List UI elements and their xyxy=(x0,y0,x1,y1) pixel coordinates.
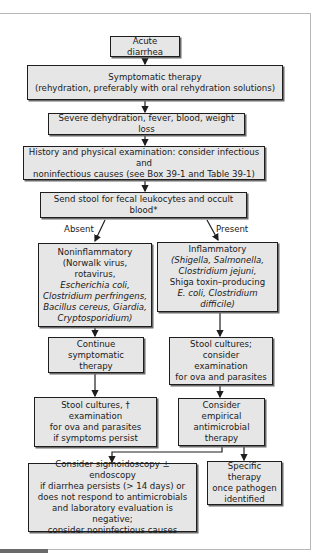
node-text: therapy xyxy=(205,433,238,444)
node-stool-cultures-persist: Stool cultures, † examination for ova an… xyxy=(34,397,157,447)
node-text: and laboratory evaluation is negative; xyxy=(32,503,193,525)
node-text: (rehydration, preferably with oral rehyd… xyxy=(35,83,275,94)
node-title: Inflammatory xyxy=(189,244,247,255)
node-severe-dehydration: Severe dehydration, fever, blood, weight… xyxy=(48,113,245,135)
node-send-stool: Send stool for fecal leukocytes and occu… xyxy=(40,192,247,218)
node-text: symptomatic therapy xyxy=(52,350,140,372)
node-text: History and physical examination: consid… xyxy=(27,147,261,169)
node-text: consider noninfectious causes xyxy=(48,525,178,536)
node-continue-therapy: Continue symptomatic therapy xyxy=(48,337,144,373)
edge-label-absent: Absent xyxy=(64,224,94,234)
node-text: Severe dehydration, fever, blood, weight… xyxy=(52,113,241,135)
node-text: Escherichia coli, xyxy=(60,280,129,291)
node-text: Shiga toxin–producing xyxy=(170,277,265,288)
node-text: Clostridium jejuni, xyxy=(179,266,257,277)
node-stool-cultures-consider: Stool cultures; consider examination for… xyxy=(169,337,273,385)
node-text: Acute diarrhea xyxy=(114,36,176,58)
node-specific-therapy: Specific therapy once pathogen identifie… xyxy=(207,461,282,505)
node-acute-diarrhea: Acute diarrhea xyxy=(110,36,180,57)
node-text: Continue xyxy=(77,339,116,350)
node-text: Specific therapy xyxy=(211,461,278,483)
node-text: Stool cultures; consider xyxy=(173,339,269,361)
node-text: antimicrobial xyxy=(193,422,249,433)
node-text: (Norwalk virus, rotavirus, xyxy=(42,258,148,280)
node-text: Consider sigmoidoscopy ± endoscopy xyxy=(32,459,193,481)
node-text: identified xyxy=(224,494,265,505)
node-text: Stool cultures, † examination xyxy=(38,400,153,422)
node-text: if diarrhea persists (> 14 days) or xyxy=(40,481,185,492)
node-text: Clostridium perfringens, xyxy=(43,291,147,302)
node-title: Noninflammatory xyxy=(58,247,133,258)
node-text: examination xyxy=(194,361,247,372)
node-text: Cryptosporidium) xyxy=(58,313,133,324)
node-text: (Shigella, Salmonella, xyxy=(171,255,264,266)
edge-label-present: Present xyxy=(216,224,248,234)
node-text: Send stool for fecal leukocytes and occu… xyxy=(44,194,243,216)
node-empirical-antimicrobial: Consider empirical antimicrobial therapy xyxy=(178,398,265,446)
node-text: E. coli, Clostridium difficile) xyxy=(161,288,274,310)
node-text: Consider empirical xyxy=(182,400,261,422)
node-text: for ova and parasites xyxy=(175,372,266,383)
node-history-exam: History and physical examination: consid… xyxy=(23,146,265,180)
node-noninflammatory: Noninflammatory (Norwalk virus, rotaviru… xyxy=(38,243,152,327)
node-inflammatory: Inflammatory (Shigella, Salmonella, Clos… xyxy=(157,242,278,312)
node-text: once pathogen xyxy=(212,483,276,494)
node-text: noninfectious causes (see Box 39-1 and T… xyxy=(33,169,255,180)
node-sigmoidoscopy: Consider sigmoidoscopy ± endoscopy if di… xyxy=(28,463,197,532)
node-text: does not respond to antimicrobials xyxy=(38,492,187,503)
node-text: if symptoms persist xyxy=(53,433,138,444)
node-symptomatic-therapy: Symptomatic therapy (rehydration, prefer… xyxy=(27,65,283,100)
node-text: Bacillus cereus, Giardia, xyxy=(43,302,147,313)
node-text: Symptomatic therapy xyxy=(108,72,201,83)
node-text: for ova and parasites xyxy=(50,422,141,433)
